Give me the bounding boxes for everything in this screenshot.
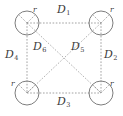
label-d1-base: D (57, 3, 66, 16)
label-d2-subscript: 2 (113, 54, 117, 62)
radius-line-bottom-left (19, 85, 28, 94)
label-d5-subscript: 5 (80, 46, 84, 54)
label-radius-top-right: r (110, 6, 114, 14)
label-d6-base: D (33, 40, 42, 53)
label-d6-subscript: 6 (42, 46, 46, 54)
label-distance-d5: D5 (71, 41, 84, 52)
label-d1-subscript: 1 (66, 9, 70, 17)
radius-line-top-right (93, 15, 102, 24)
radius-line-top-right-alt (101, 15, 110, 24)
label-radius-bottom-left: r (11, 80, 15, 88)
label-distance-d3: D3 (57, 96, 70, 107)
radius-line-top-left-alt (27, 15, 36, 24)
radius-line-bottom-right-alt (101, 85, 110, 94)
label-d5-base: D (71, 40, 80, 53)
label-d2-base: D (104, 48, 113, 61)
label-d3-subscript: 3 (66, 101, 70, 109)
label-distance-d1: D1 (57, 4, 70, 15)
label-distance-d2: D2 (104, 49, 117, 60)
label-d3-base: D (57, 95, 66, 108)
label-distance-d6: D6 (33, 41, 46, 52)
radius-line-top-left (19, 15, 28, 24)
geometry-diagram: D1 D2 D3 D4 D5 D6 r r r r (0, 0, 123, 116)
label-d4-subscript: 4 (14, 54, 18, 62)
label-radius-top-left: r (33, 6, 37, 14)
label-radius-bottom-right: r (110, 80, 114, 88)
label-distance-d4: D4 (5, 49, 18, 60)
label-d4-base: D (5, 48, 14, 61)
